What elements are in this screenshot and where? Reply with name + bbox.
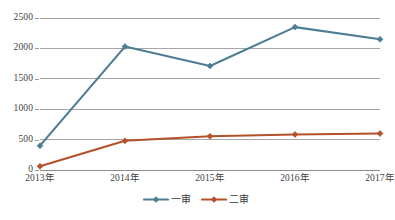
y-tick-label: 2000	[14, 44, 33, 54]
data-point-marker	[207, 133, 213, 139]
data-point-marker	[122, 138, 128, 144]
y-tick-mark	[35, 18, 39, 19]
y-tick-mark	[35, 140, 39, 141]
legend-label: 二审	[229, 195, 249, 205]
data-point-marker	[377, 36, 383, 42]
y-tick-mark	[35, 48, 39, 49]
legend-marker-icon	[143, 194, 169, 205]
x-tick-label: 2016年	[280, 174, 310, 184]
data-point-marker	[292, 131, 298, 137]
y-tick-mark	[35, 109, 39, 110]
y-tick-label: 2500	[14, 13, 33, 23]
data-point-marker	[37, 163, 43, 169]
y-tick-label: 1000	[14, 104, 33, 114]
legend-marker-icon	[201, 194, 227, 205]
series-line	[40, 27, 380, 146]
data-point-marker	[377, 131, 383, 137]
x-tick-label: 2015年	[195, 174, 225, 184]
legend-label: 一审	[171, 195, 191, 205]
y-tick-mark	[35, 170, 39, 171]
legend-item-2[interactable]: 二审	[201, 194, 249, 205]
plot-area	[40, 18, 380, 170]
x-tick-label: 2014年	[110, 174, 140, 184]
y-tick-label: 1500	[14, 74, 33, 84]
x-axis-labels: 2013年2014年2015年2016年2017年	[40, 172, 380, 188]
y-tick-label: 500	[18, 135, 33, 145]
x-tick-label: 2017年	[365, 174, 395, 184]
y-axis-labels: 05001000150020002500	[0, 18, 33, 170]
series-1	[37, 24, 383, 149]
x-tick-label: 2013年	[25, 174, 55, 184]
y-tick-mark	[35, 79, 39, 80]
chart-legend: 一审二审	[0, 194, 391, 205]
plot-svg	[40, 18, 380, 170]
series-2	[37, 131, 383, 170]
legend-item-1[interactable]: 一审	[143, 194, 191, 205]
